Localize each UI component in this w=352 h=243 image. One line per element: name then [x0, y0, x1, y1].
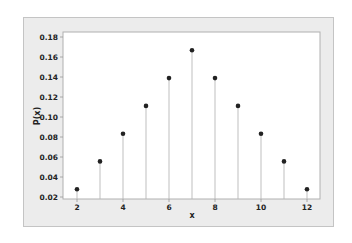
- stem-chart: 0.020.040.060.080.100.120.140.160.18 246…: [0, 0, 352, 243]
- data-point: [98, 159, 103, 164]
- y-tick-label: 0.02: [39, 193, 58, 202]
- y-tick-label: 0.16: [39, 53, 58, 62]
- y-tick-label: 0.14: [39, 73, 58, 82]
- data-point: [190, 48, 195, 53]
- data-point: [213, 76, 218, 81]
- x-tick-label: 6: [166, 203, 171, 212]
- x-tick-label: 8: [212, 203, 217, 212]
- y-tick-label: 0.10: [39, 113, 58, 122]
- y-tick-label: 0.08: [39, 133, 58, 142]
- y-tick-label: 0.18: [39, 33, 58, 42]
- data-point: [282, 159, 287, 164]
- plot-area: [63, 32, 320, 199]
- x-tick-label: 12: [302, 203, 312, 212]
- x-tick-label: 2: [74, 203, 79, 212]
- data-point: [167, 76, 172, 81]
- data-point: [305, 187, 310, 192]
- y-axis: 0.020.040.060.080.100.120.140.160.18: [39, 33, 63, 202]
- data-point: [144, 104, 149, 109]
- x-tick-label: 10: [256, 203, 266, 212]
- data-point: [236, 104, 241, 109]
- data-point: [75, 187, 80, 192]
- x-tick-label: 4: [120, 203, 125, 212]
- y-tick-label: 0.06: [39, 153, 58, 162]
- y-axis-title: P(x): [33, 107, 42, 125]
- y-tick-label: 0.12: [39, 93, 58, 102]
- y-tick-label: 0.04: [39, 173, 58, 182]
- x-axis-title: x: [189, 211, 195, 220]
- data-point: [259, 131, 264, 136]
- data-point: [121, 131, 126, 136]
